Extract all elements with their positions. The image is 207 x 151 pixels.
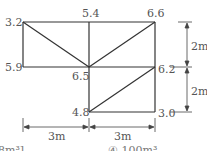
- dim-horizontal-left: 3m: [48, 130, 66, 143]
- grid-lines: [23, 22, 155, 112]
- elev-mid-right: 6.2: [158, 63, 176, 76]
- answer-fragment-right: ④ 100m³: [108, 144, 157, 151]
- diagonal-bottom: [89, 67, 155, 112]
- diagonal-top-left: [23, 22, 89, 67]
- elev-top-mid: 5.4: [82, 7, 100, 20]
- dim-vertical-top: 2m: [191, 40, 207, 53]
- elev-mid-center: 6.5: [72, 70, 90, 83]
- elev-bot-right: 3.0: [158, 107, 176, 120]
- diagonal-top-right: [89, 22, 155, 67]
- elev-top-right: 6.6: [147, 7, 165, 20]
- horizontal-dimension: [23, 118, 155, 132]
- grid-diagram: 3.2 5.4 6.6 5.9 6.5 6.2 4.8 3.0 2m 2m 3m…: [0, 0, 207, 151]
- elev-mid-left: 5.9: [5, 61, 23, 74]
- dim-horizontal-right: 3m: [114, 130, 132, 143]
- elev-top-left: 3.2: [5, 16, 23, 29]
- answer-fragment-left: 8m³]: [0, 144, 24, 151]
- dim-vertical-bottom: 2m: [191, 85, 207, 98]
- elev-bot-mid: 4.8: [72, 106, 90, 119]
